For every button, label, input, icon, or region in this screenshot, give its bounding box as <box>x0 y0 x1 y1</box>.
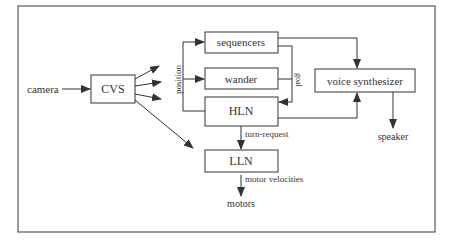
cvs-out-arrow-1 <box>135 66 159 79</box>
motors-label: motors <box>227 198 255 209</box>
goal-label: goal <box>294 73 303 88</box>
cvs-to-lln-arrow <box>135 100 193 148</box>
wander-label: wander <box>225 73 258 85</box>
hln-to-voice-arrow <box>278 93 357 118</box>
hln-label: HLN <box>229 104 254 118</box>
cvs-label: CVS <box>101 82 124 96</box>
cvs-out-arrow-3 <box>135 94 161 99</box>
sequencers-to-voice-arrow <box>278 38 357 68</box>
motor-velocities-label: motor velocities <box>245 174 304 184</box>
turn-request-label: turn-request <box>245 129 289 139</box>
goal-from-sequencers <box>278 46 292 102</box>
cvs-out-arrow-2 <box>135 82 161 86</box>
speaker-label: speaker <box>378 131 409 142</box>
voice-synthesizer-label: voice synthesizer <box>327 75 403 87</box>
sequencers-label: sequencers <box>217 36 265 48</box>
architecture-diagram: camera CVS sequencers wander HLN LLN voi… <box>0 0 451 243</box>
lln-label: LLN <box>229 154 253 168</box>
camera-label: camera <box>27 83 59 95</box>
position-label: position <box>173 64 183 94</box>
